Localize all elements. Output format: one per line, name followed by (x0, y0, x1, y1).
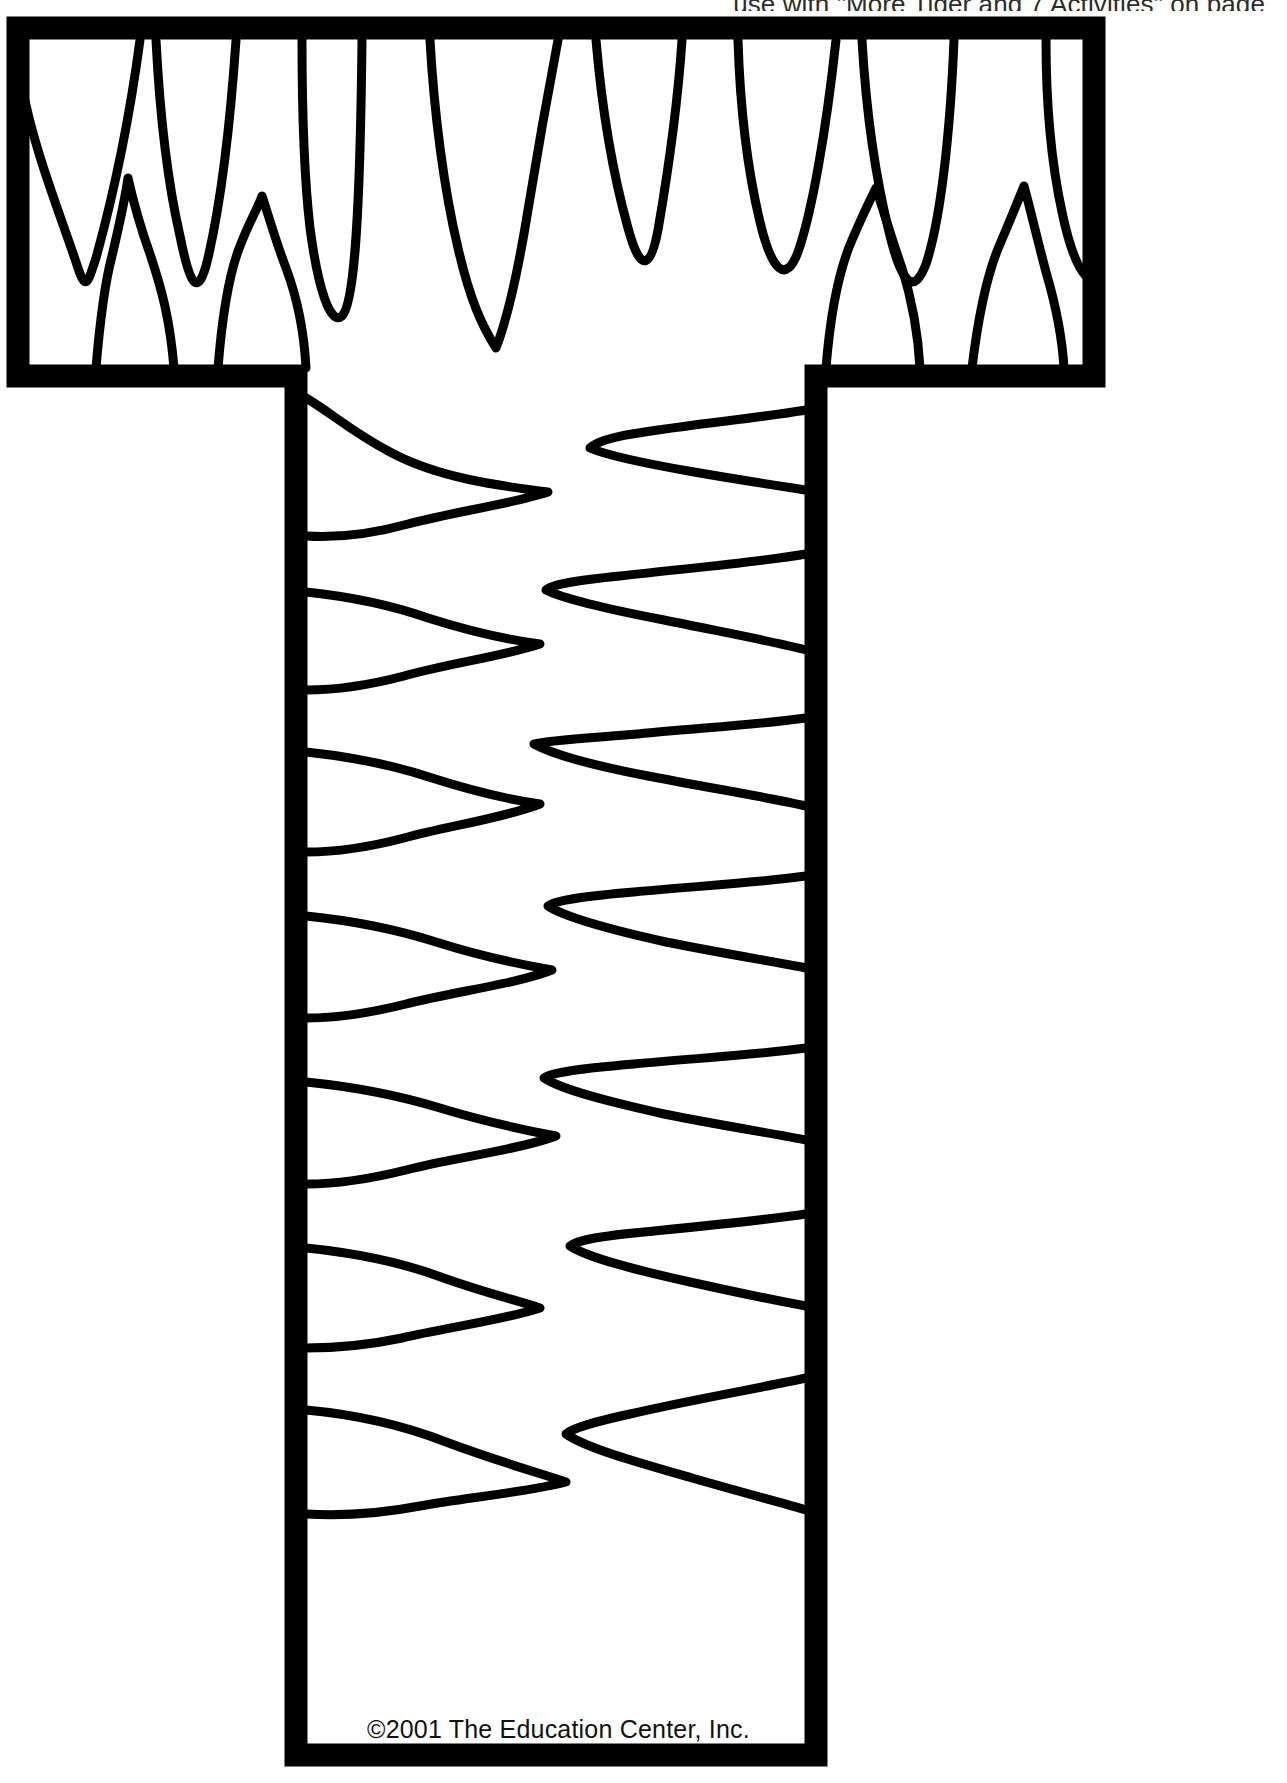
letter-t-outline (18, 28, 1094, 1755)
crossbar-stripes (22, 40, 1086, 368)
letter-t-tiger-artwork (0, 0, 1287, 1783)
letter-t-svg (0, 0, 1287, 1783)
page-canvas: use with "More Tiger and 7 Activities" o… (0, 0, 1287, 1783)
stem-stripes (306, 398, 806, 1515)
